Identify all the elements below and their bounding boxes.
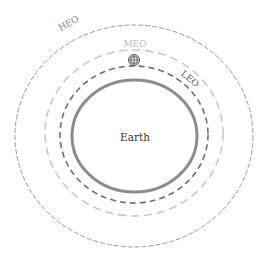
satellite-icon (129, 55, 140, 66)
leo-label: LEO (179, 68, 201, 88)
earth-label: Earth (120, 131, 150, 143)
heo-label: HEO (57, 14, 81, 33)
orbit-diagram: Earth MEO HEO LEO (0, 0, 270, 262)
meo-label: MEO (123, 39, 146, 49)
